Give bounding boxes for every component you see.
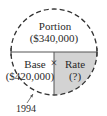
year-annotation: 1994: [13, 103, 39, 114]
base-label: Base: [20, 59, 50, 70]
base-value: ($420,000): [5, 71, 55, 82]
rate-value: (?): [62, 71, 88, 82]
portion-value: ($340,000): [24, 33, 84, 44]
multiply-operator: ×: [49, 58, 59, 69]
rate-label: Rate: [60, 59, 90, 70]
arrowhead-icon: [30, 94, 33, 98]
portion-label: Portion: [30, 21, 80, 32]
